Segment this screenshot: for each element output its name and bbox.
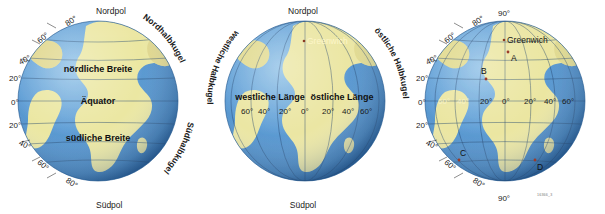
longitude-tick-label: 40° <box>457 97 469 106</box>
latitude-tick-label: 20° <box>416 74 428 83</box>
figure-globes: 80° 60° 40° 20° 0° 20° 40° 60° 80° Nordp… <box>0 0 605 214</box>
greenwich-marker <box>303 40 306 43</box>
longitude-tick-label: 20° <box>279 107 291 116</box>
zone-label-east: östliche Länge <box>310 92 373 102</box>
north-pole-label: Nordpol <box>288 6 318 16</box>
north-pole-label: Nordpol <box>96 6 126 16</box>
grid-globe: 80° 60° 40° 20° 0° 20° 40° 60° 80° 90° 9… <box>405 0 605 214</box>
longitude-tick-label: 60° <box>241 107 253 116</box>
zone-label-west: westliche Länge <box>234 92 305 102</box>
longitude-tick-label: 60° <box>438 97 450 106</box>
longitude-globe: Greenwich Nordpol Südpol westliche Länge… <box>200 0 410 214</box>
zone-label-equator: Äquator <box>81 96 116 106</box>
figure-watermark: 16366_3 <box>537 193 552 197</box>
longitude-tick-label: 40° <box>258 107 270 116</box>
zone-label-south: südliche Breite <box>66 133 131 143</box>
latitude-tick-label: 20° <box>9 121 21 130</box>
south-pole-label: Südpol <box>290 200 317 210</box>
longitude-tick-label: 0° <box>502 97 510 106</box>
zone-label-north: nördliche Breite <box>64 64 133 74</box>
point-marker-a <box>507 51 510 54</box>
point-label-c: C <box>460 148 466 158</box>
south-pole-label: Südpol <box>96 200 123 210</box>
greenwich-label: Greenwich <box>507 35 548 45</box>
north-pole-label: 90° <box>498 9 510 18</box>
latitude-globe: 80° 60° 40° 20° 0° 20° 40° 60° 80° Nordp… <box>0 0 200 214</box>
latitude-tick-label: 20° <box>416 121 428 130</box>
longitude-tick-label: 20° <box>524 97 536 106</box>
longitude-tick-label: 40° <box>544 97 556 106</box>
latitude-tick-label: 0° <box>11 98 19 107</box>
greenwich-label: Greenwich <box>307 36 348 46</box>
longitude-tick-label: 60° <box>562 97 574 106</box>
point-label-b: B <box>481 66 487 76</box>
point-marker-c <box>458 159 461 162</box>
latitude-tick-label: 0° <box>418 98 426 107</box>
longitude-tick-label: 20° <box>480 97 492 106</box>
point-marker-d <box>534 159 537 162</box>
longitude-tick-label: 0° <box>301 107 309 116</box>
point-label-d: D <box>537 162 543 172</box>
longitude-tick-label: 20° <box>322 107 334 116</box>
latitude-tick-label: 20° <box>9 74 21 83</box>
greenwich-marker <box>503 39 506 42</box>
point-label-a: A <box>511 53 517 63</box>
south-pole-label: 90° <box>498 194 510 203</box>
longitude-tick-label: 40° <box>342 107 354 116</box>
longitude-tick-label: 60° <box>360 107 372 116</box>
point-marker-b <box>485 78 488 81</box>
